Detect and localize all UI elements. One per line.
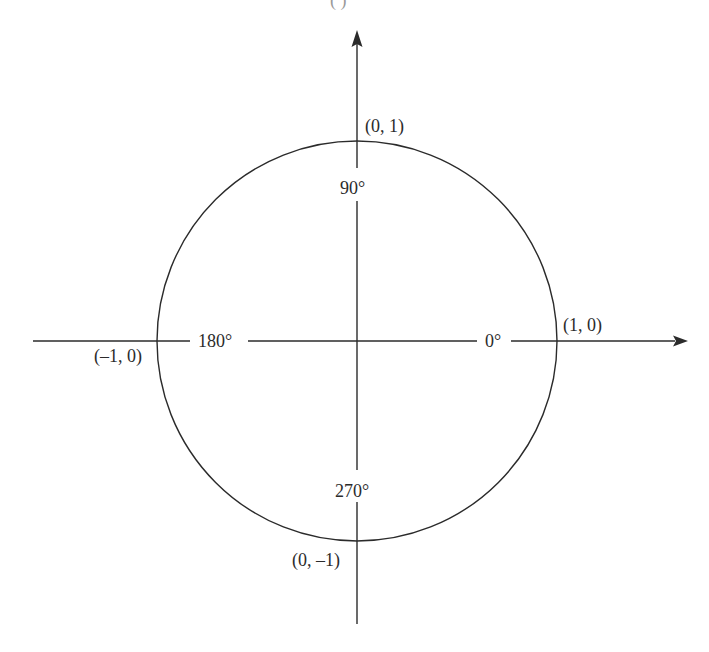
unit-circle-diagram: ( ) 0° 90° 180° 270° (1, 0) (0, 1) (–1, … [0,0,709,652]
angle-label-270: 270° [335,481,369,501]
point-label-neg1-0: (–1, 0) [94,346,142,367]
point-label-1-0: (1, 0) [563,315,602,336]
x-axis-arrow-icon [673,336,688,347]
point-label-0-neg1: (0, –1) [292,550,340,571]
x-axis [33,336,688,347]
angle-label-0: 0° [485,331,501,351]
angle-label-90: 90° [340,178,365,198]
y-axis [352,30,363,624]
point-label-0-1: (0, 1) [365,116,404,137]
cut-off-top-text: ( ) [330,0,347,11]
angle-label-180: 180° [198,331,232,351]
